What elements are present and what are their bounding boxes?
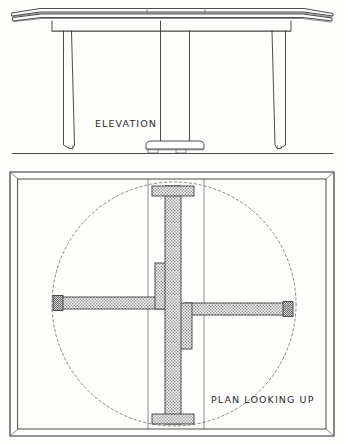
technical-drawing-canvas: ELEVATION	[0, 0, 344, 444]
bottom-flange	[152, 414, 194, 424]
vertical-spine-beam	[165, 186, 181, 424]
elevation-label: ELEVATION	[95, 118, 157, 129]
tabletop	[12, 9, 333, 23]
apron	[52, 21, 291, 32]
pedestal-foot	[146, 141, 204, 153]
left-leg	[64, 31, 75, 149]
center-pedestal	[161, 21, 190, 141]
left-arm	[53, 296, 170, 311]
plan-label: PLAN LOOKING UP	[211, 394, 314, 405]
right-arm	[185, 302, 293, 317]
plan-view: PLAN LOOKING UP	[10, 172, 334, 436]
drawing-sheet: ELEVATION	[0, 0, 344, 444]
top-flange	[152, 186, 194, 196]
right-leg	[272, 31, 286, 149]
elevation-view: ELEVATION	[12, 9, 333, 154]
